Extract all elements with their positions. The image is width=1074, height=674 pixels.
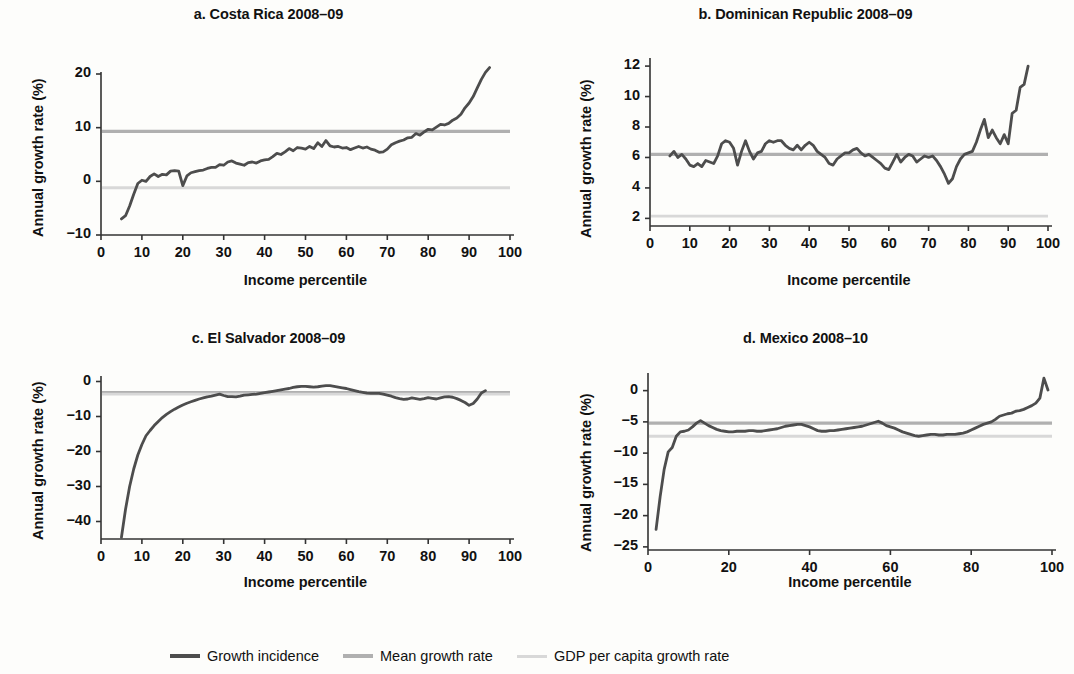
legend-swatch-line-icon-1 — [343, 654, 373, 658]
chart-panel-d: d. Mexico 2008–10Annual growth rate (%)I… — [0, 0, 1074, 674]
figure-legend: Growth incidenceMean growth rateGDP per … — [170, 648, 729, 664]
legend-label-1: Mean growth rate — [380, 648, 493, 664]
growth-incidence-curves-figure: a. Costa Rica 2008–09Annual growth rate … — [0, 0, 1074, 674]
legend-label-0: Growth incidence — [207, 648, 319, 664]
series-growth-incidence-d — [656, 378, 1048, 529]
legend-swatch-line-icon-2 — [517, 655, 547, 658]
legend-label-2: GDP per capita growth rate — [554, 648, 729, 664]
legend-item-1: Mean growth rate — [343, 648, 493, 664]
legend-item-0: Growth incidence — [170, 648, 319, 664]
plot-area-d — [0, 0, 1074, 674]
legend-swatch-line-icon-0 — [170, 654, 200, 659]
legend-item-2: GDP per capita growth rate — [517, 648, 729, 664]
